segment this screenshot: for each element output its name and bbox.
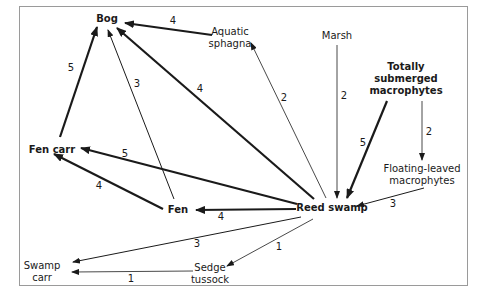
edge-weight-label: 5	[360, 138, 366, 148]
edge-fen-to-bog	[108, 30, 174, 199]
edge-weight-label: 4	[170, 16, 176, 26]
edge-weight-label: 1	[276, 242, 282, 252]
node-aquatic-sphagna: Aquaticsphagna	[209, 26, 252, 50]
node-reed-swamp: Reed swamp	[296, 202, 367, 214]
edge-weight-label: 3	[194, 239, 200, 249]
node-swamp-carr: Swampcarr	[24, 260, 61, 284]
edge-reed_swamp-to-bog	[117, 28, 314, 199]
node-floating-leaved: Floating-leavedmacrophytes	[383, 163, 460, 187]
node-fen: Fen	[168, 204, 188, 216]
edge-aquatic_sphagna-to-bog	[125, 23, 212, 35]
edge-weight-label: 5	[122, 149, 128, 159]
node-fen-carr: Fen carr	[29, 144, 75, 156]
edge-reed_swamp-to-swamp_carr	[73, 217, 301, 262]
edge-weight-label: 5	[68, 63, 74, 73]
edge-weight-label: 2	[341, 91, 347, 101]
node-totally-submerged: Totallysubmergedmacrophytes	[369, 61, 442, 97]
edge-weight-label: 4	[218, 212, 224, 222]
edge-weight-label: 2	[426, 127, 432, 137]
edge-fen_carr-to-bog	[60, 27, 97, 137]
edge-weight-label: 4	[197, 84, 203, 94]
node-bog: Bog	[96, 13, 118, 25]
edge-reed_swamp-to-fen	[196, 209, 296, 210]
node-sedge-tussock: Sedgetussock	[191, 262, 229, 286]
edge-weight-label: 4	[96, 181, 102, 191]
node-marsh: Marsh	[322, 30, 352, 42]
edge-weight-label: 2	[281, 93, 287, 103]
edge-totally_submerged-to-reed_swamp	[347, 101, 387, 198]
edge-fen-to-fen_carr	[54, 154, 163, 209]
edge-reed_swamp-to-aquatic_sphagna	[251, 43, 326, 198]
edge-weight-label: 3	[134, 79, 140, 89]
edge-weight-label: 1	[128, 274, 134, 284]
edge-weight-label: 3	[390, 199, 396, 209]
edge-sedge_tussock-to-swamp_carr	[72, 271, 193, 272]
edge-reed_swamp-to-sedge_tussock	[227, 219, 313, 266]
